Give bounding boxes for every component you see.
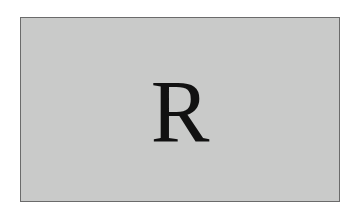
letter-card: R (20, 17, 340, 202)
card-letter: R (21, 68, 339, 156)
